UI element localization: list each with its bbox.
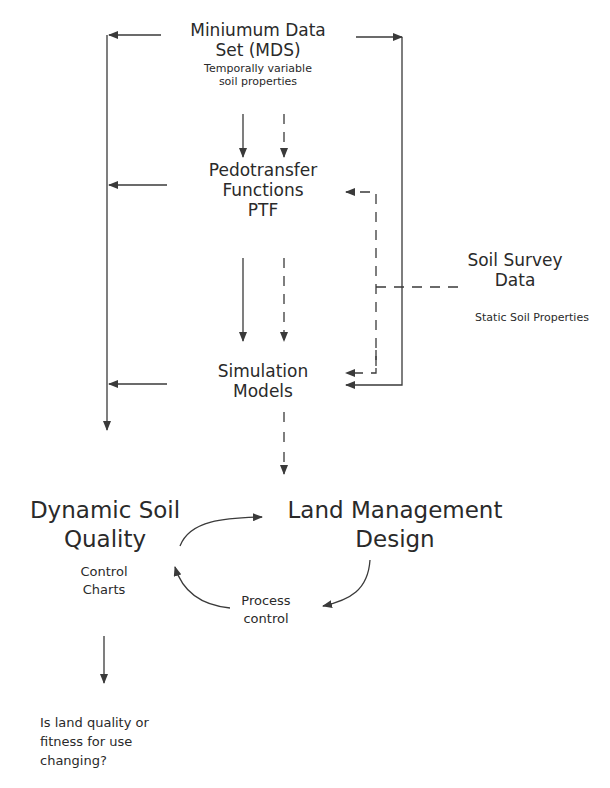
soil-survey-sub: Static Soil Properties bbox=[457, 312, 607, 325]
node-dsq: Dynamic Soil Quality bbox=[15, 496, 195, 554]
ptf-line3: PTF bbox=[178, 200, 348, 220]
process-line1: Process bbox=[226, 592, 306, 610]
mds-sub-line2: soil properties bbox=[168, 76, 348, 89]
node-ptf: Pedotransfer Functions PTF bbox=[178, 160, 348, 220]
lmd-line2: Design bbox=[270, 525, 520, 554]
ptf-line2: Functions bbox=[178, 180, 348, 200]
mds-title-line1: Miniumum Data bbox=[168, 20, 348, 40]
simulation-line2: Models bbox=[198, 381, 328, 401]
node-simulation: Simulation Models bbox=[198, 361, 328, 401]
node-question: Is land quality or fitness for use chang… bbox=[40, 714, 149, 771]
right-frame-line bbox=[346, 37, 402, 385]
simulation-line1: Simulation bbox=[198, 361, 328, 381]
arrow-process-to-dsq bbox=[175, 567, 230, 608]
node-mds: Miniumum Data Set (MDS) Temporally varia… bbox=[168, 20, 348, 89]
dsq-line1: Dynamic Soil bbox=[15, 496, 195, 525]
dashed-to-sim bbox=[346, 350, 376, 373]
node-soil-survey: Soil Survey Data bbox=[440, 250, 590, 290]
node-process-control: Process control bbox=[226, 592, 306, 628]
question-line2: fitness for use bbox=[40, 733, 149, 752]
dsq-sub: Control Charts bbox=[54, 563, 154, 598]
soil-survey-line1: Soil Survey bbox=[440, 250, 590, 270]
question-line3: changing? bbox=[40, 752, 149, 771]
dashed-to-ptf bbox=[346, 192, 376, 366]
ptf-line1: Pedotransfer bbox=[178, 160, 348, 180]
lmd-line1: Land Management bbox=[270, 496, 520, 525]
question-line1: Is land quality or bbox=[40, 714, 149, 733]
node-lmd: Land Management Design bbox=[270, 496, 520, 554]
dsq-sub-line1: Control bbox=[54, 563, 154, 581]
mds-title-line2: Set (MDS) bbox=[168, 40, 348, 60]
arrow-lmd-to-process bbox=[323, 560, 370, 606]
soil-survey-line2: Data bbox=[440, 270, 590, 290]
dsq-line2: Quality bbox=[15, 525, 195, 554]
process-line2: control bbox=[226, 610, 306, 628]
dsq-sub-line2: Charts bbox=[54, 581, 154, 599]
